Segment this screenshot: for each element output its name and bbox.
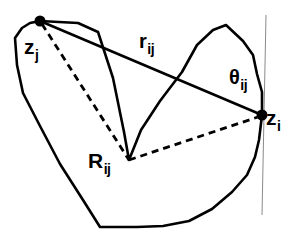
label-r-ij: rij xyxy=(139,31,154,56)
label-theta-ij-sub: ij xyxy=(240,77,247,93)
label-z-j: zj xyxy=(24,36,38,62)
label-z-i: zi xyxy=(266,107,280,133)
label-R-ij: Rij xyxy=(88,150,110,176)
label-z-i-sub: i xyxy=(277,118,280,134)
label-theta-ij: θij xyxy=(229,67,247,92)
label-z-j-base: z xyxy=(24,35,35,58)
label-r-ij-sub: ij xyxy=(147,41,154,57)
point-marker-z-j xyxy=(35,16,46,27)
label-z-i-base: z xyxy=(266,106,277,129)
dashed-R-to-zi-line xyxy=(129,116,261,160)
geometry-figure: zj zi rij θij Rij xyxy=(0,0,295,241)
label-R-ij-base: R xyxy=(88,149,103,172)
label-z-j-sub: j xyxy=(35,47,38,63)
label-R-ij-sub: ij xyxy=(104,161,111,177)
label-r-ij-base: r xyxy=(139,30,147,52)
label-theta-ij-base: θ xyxy=(229,66,240,88)
